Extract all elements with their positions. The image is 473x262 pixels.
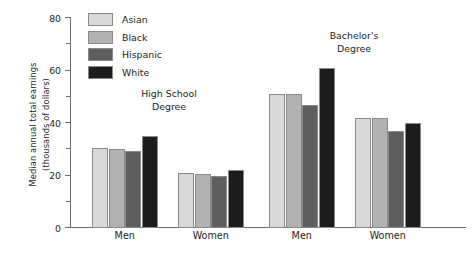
y-tick-minor-10 — [66, 201, 71, 202]
legend-item-asian: Asian — [88, 11, 162, 29]
bar-white-2 — [319, 68, 335, 228]
legend-label-hispanic: Hispanic — [122, 49, 162, 60]
legend-item-hispanic: Hispanic — [88, 46, 162, 64]
legend-swatch-asian — [88, 13, 113, 26]
x-axis-label-0: Men — [76, 230, 174, 241]
bar-asian-0 — [92, 148, 108, 228]
y-tick-40: 40 — [65, 122, 71, 123]
bar-white-1 — [228, 170, 244, 228]
y-tick-label-80: 80 — [49, 12, 61, 23]
x-axis-label-2: Men — [253, 230, 351, 241]
legend-swatch-black — [88, 31, 113, 44]
annotation-high-school-line-1: High School — [133, 88, 205, 101]
y-tick-label-60: 60 — [49, 65, 61, 76]
y-tick-label-40: 40 — [49, 117, 61, 128]
bar-hispanic-2 — [302, 105, 318, 228]
y-tick-minor-30 — [66, 148, 71, 149]
legend-label-white: White — [122, 67, 149, 78]
bar-hispanic-3 — [388, 131, 404, 228]
bar-asian-3 — [355, 118, 371, 228]
x-axis-label-3: Women — [339, 230, 437, 241]
y-axis-title: Median annual total earnings (thousands … — [27, 25, 52, 225]
legend-swatch-white — [88, 66, 113, 79]
legend-label-asian: Asian — [122, 14, 148, 25]
y-tick-60: 60 — [65, 70, 71, 71]
annotation-high-school-degree: High School Degree — [133, 88, 205, 113]
bar-asian-2 — [269, 94, 285, 228]
y-tick-label-20: 20 — [49, 170, 61, 181]
y-tick-80: 80 — [65, 17, 71, 18]
bar-chart: Median annual total earnings (thousands … — [0, 0, 473, 262]
x-axis-label-1: Women — [162, 230, 260, 241]
bar-group-1 — [178, 18, 244, 228]
bar-hispanic-0 — [125, 151, 141, 228]
annotation-high-school-line-2: Degree — [133, 101, 205, 114]
y-tick-0: 0 — [65, 227, 71, 228]
bar-black-3 — [372, 118, 388, 228]
y-tick-20: 20 — [65, 175, 71, 176]
legend-item-white: White — [88, 64, 162, 82]
legend-swatch-hispanic — [88, 48, 113, 61]
y-tick-minor-50 — [66, 96, 71, 97]
annotation-bachelors-line-1: Bachelor's — [318, 30, 390, 43]
bar-black-0 — [109, 149, 125, 228]
legend-item-black: Black — [88, 29, 162, 47]
legend-label-black: Black — [122, 32, 147, 43]
bar-white-0 — [142, 136, 158, 228]
bar-black-2 — [286, 94, 302, 228]
y-axis-title-line-1: Median annual total earnings — [27, 25, 40, 225]
bar-hispanic-1 — [211, 176, 227, 229]
y-tick-minor-70 — [66, 43, 71, 44]
bar-white-3 — [405, 123, 421, 228]
legend: Asian Black Hispanic White — [88, 11, 162, 81]
y-axis-line — [70, 18, 71, 228]
annotation-bachelors-line-2: Degree — [318, 43, 390, 56]
annotation-bachelors-degree: Bachelor's Degree — [318, 30, 390, 55]
bar-black-1 — [195, 174, 211, 228]
y-tick-label-0: 0 — [55, 222, 61, 233]
bar-asian-1 — [178, 173, 194, 228]
